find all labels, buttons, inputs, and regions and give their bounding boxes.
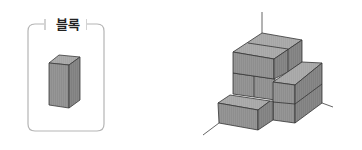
block-stack <box>218 33 322 130</box>
axis-left <box>203 123 219 135</box>
legend-block-icon <box>49 55 80 108</box>
axis-right <box>322 103 333 107</box>
legend-title: 블록 <box>50 18 86 32</box>
